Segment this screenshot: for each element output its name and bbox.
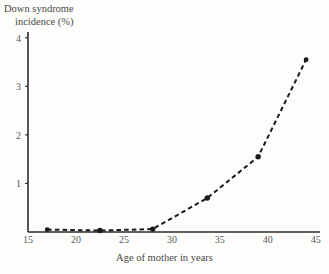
y-axis-tick-label: 1 — [9, 178, 21, 189]
y-axis-tick-label: 3 — [9, 81, 21, 92]
y-axis-tick-label: 2 — [9, 129, 21, 140]
x-axis-tick-label: 40 — [263, 234, 273, 245]
x-axis-tick-label: 15 — [23, 234, 33, 245]
data-point-marker — [150, 226, 155, 231]
x-axis-tick-label: 30 — [167, 234, 177, 245]
data-point-marker — [97, 228, 102, 233]
data-point-marker — [205, 195, 210, 200]
x-axis-tick-label: 25 — [119, 234, 129, 245]
data-point-marker — [255, 154, 260, 159]
chart-figure: Down syndrome incidence (%) 152025303540… — [0, 0, 329, 274]
x-axis-tick-label: 35 — [215, 234, 225, 245]
data-line — [47, 60, 306, 231]
y-axis-tick-label: 4 — [9, 32, 21, 43]
plot-area — [0, 0, 329, 274]
x-axis-tick-label: 45 — [311, 234, 321, 245]
data-point-marker — [304, 57, 309, 62]
data-point-marker — [45, 227, 50, 232]
data-point-markers — [45, 57, 309, 233]
x-axis-label: Age of mother in years — [0, 252, 329, 263]
x-axis-tick-label: 20 — [71, 234, 81, 245]
